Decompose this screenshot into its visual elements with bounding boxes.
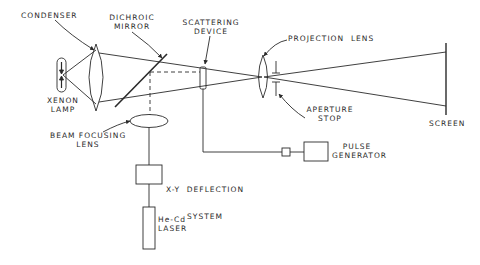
pulse-label-line1: PULSE xyxy=(332,142,382,151)
screen-label: SCREEN xyxy=(429,119,465,128)
xenon-lamp-label: XENON LAMP xyxy=(44,96,82,114)
xenon-label-line1: XENON xyxy=(44,96,82,105)
xenon-label-line2: LAMP xyxy=(44,105,82,114)
connector-icon xyxy=(282,148,290,156)
aperture-label-line2: STOP xyxy=(300,114,360,123)
pulse-label-line2: GENERATOR xyxy=(332,151,382,160)
beam-label-line1: BEAM FOCUSING xyxy=(50,131,126,140)
scattering-label-line2: DEVICE xyxy=(180,27,242,36)
xy-label-line1: X-Y DEFLECTION xyxy=(164,185,246,194)
condenser-label: CONDENSER xyxy=(21,11,78,20)
pulse-generator-box xyxy=(304,142,328,161)
dichroic-mirror-icon xyxy=(115,54,167,107)
scattering-label-line1: SCATTERING xyxy=(180,18,242,27)
laser-box xyxy=(143,207,155,249)
dichroic-label-line2: MIRROR xyxy=(108,22,156,31)
beam-focusing-lens-icon xyxy=(130,115,168,128)
dichroic-mirror-label: DICHROIC MIRROR xyxy=(108,13,156,31)
laser-label: He-Cd LASER xyxy=(158,215,187,233)
xenon-lamp-icon xyxy=(57,58,66,92)
pulse-generator-label: PULSE GENERATOR xyxy=(332,142,382,160)
beam-focusing-lens-label: BEAM FOCUSING LENS xyxy=(50,131,126,149)
laser-label-line1: He-Cd xyxy=(158,215,187,224)
scattering-device-label: SCATTERING DEVICE xyxy=(180,18,242,36)
beam-label-line2: LENS xyxy=(50,140,126,149)
laser-label-line2: LASER xyxy=(158,224,187,233)
aperture-label-line1: APERTURE xyxy=(300,105,360,114)
xy-deflection-box xyxy=(136,165,162,184)
dichroic-label-line1: DICHROIC xyxy=(108,13,156,22)
projection-lens-label: PROJECTION LENS xyxy=(288,34,374,43)
aperture-stop-label: APERTURE STOP xyxy=(300,105,360,123)
